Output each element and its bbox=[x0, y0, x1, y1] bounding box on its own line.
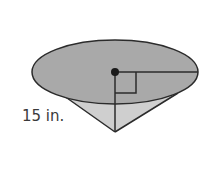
slant-height-label: 15 in. bbox=[22, 107, 64, 125]
cone-diagram bbox=[0, 0, 207, 177]
center-point bbox=[111, 68, 119, 76]
